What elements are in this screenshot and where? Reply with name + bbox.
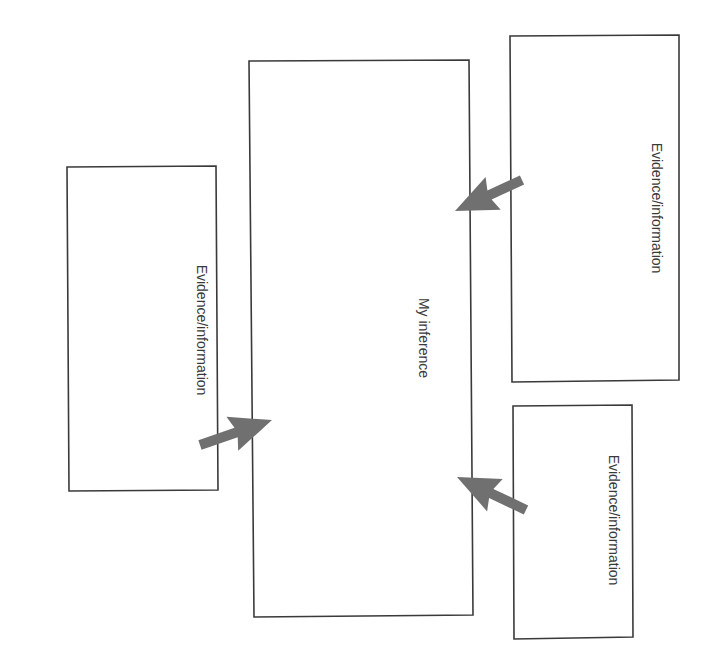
evidence-box-left: Evidence/information xyxy=(67,166,218,491)
inference-box: My inference xyxy=(249,60,473,617)
inference-label: My inference xyxy=(416,298,432,378)
evidence-box-bottom-right: Evidence/information xyxy=(513,405,633,639)
evidence-label-top-right: Evidence/information xyxy=(649,143,665,274)
arrow-top-right-to-inference xyxy=(455,176,524,212)
inference-diagram: Evidence/information My inference Eviden… xyxy=(0,0,714,669)
arrow-left-to-inference xyxy=(198,417,272,451)
arrows xyxy=(198,176,528,515)
evidence-label-left: Evidence/information xyxy=(194,265,210,396)
evidence-label-bottom-right: Evidence/information xyxy=(606,455,622,586)
evidence-box-top-right: Evidence/information xyxy=(510,35,679,382)
inference-box-frame xyxy=(249,60,473,617)
arrow-bottom-right-to-inference xyxy=(457,477,528,515)
